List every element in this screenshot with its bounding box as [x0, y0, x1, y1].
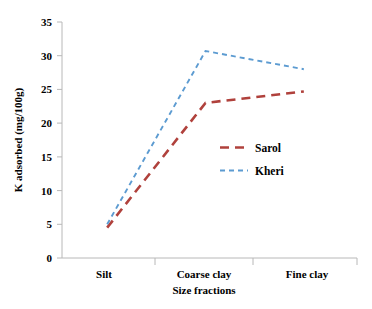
y-tick-label-30: 30: [41, 50, 53, 62]
y-tick-label-20: 20: [41, 117, 53, 129]
x-tick-label-coarse-clay: Coarse clay: [177, 268, 232, 280]
y-tick-label-25: 25: [41, 83, 53, 95]
legend-label-kheri: Kheri: [255, 165, 285, 177]
y-tick-label-0: 0: [47, 252, 53, 264]
y-axis-title: K adsorbed (mg/100g): [12, 87, 25, 192]
line-chart: 0 5 10 15 20 25 30 35 Silt Coarse clay F…: [0, 0, 372, 309]
y-tick-label-10: 10: [41, 185, 53, 197]
chart-container: 0 5 10 15 20 25 30 35 Silt Coarse clay F…: [0, 0, 372, 309]
x-axis-title: Size fractions: [172, 284, 236, 296]
plot-area-background: [62, 22, 357, 258]
x-tick-label-fine-clay: Fine clay: [286, 268, 329, 280]
y-tick-label-15: 15: [41, 151, 53, 163]
legend-label-sarol: Sarol: [255, 142, 281, 154]
y-tick-label-35: 35: [41, 16, 53, 28]
x-tick-label-silt: Silt: [96, 268, 112, 280]
y-tick-label-5: 5: [47, 218, 53, 230]
